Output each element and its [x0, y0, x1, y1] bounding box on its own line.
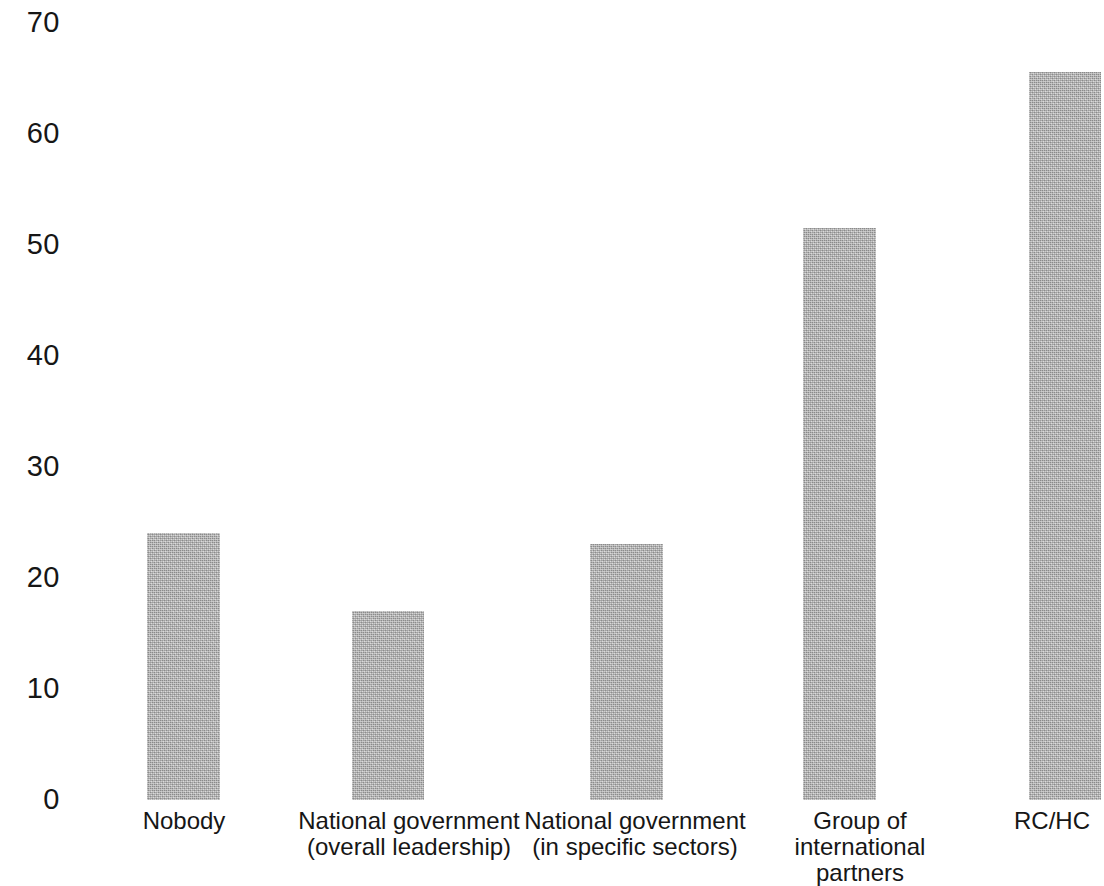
bar-national-government-in-specific-sectors — [590, 544, 663, 800]
x-axis-label-group-of-international-partners: Group of international partners — [746, 808, 974, 886]
x-axis-label-national-government-in-specific-sectors: National government (in specific sectors… — [524, 808, 746, 860]
bar-group-of-international-partners — [803, 228, 876, 800]
bar-national-government-overall-leadership — [352, 611, 424, 800]
x-axis-label-national-government-overall-leadership: National government (overall leadership) — [298, 808, 520, 860]
x-axis: Nobody National government (overall lead… — [0, 808, 1104, 862]
bar-nobody — [147, 533, 220, 800]
x-axis-label-rc-hc: RC/HC — [1000, 808, 1104, 834]
bar-rc-hc — [1029, 72, 1101, 800]
x-axis-label-nobody: Nobody — [115, 808, 253, 834]
